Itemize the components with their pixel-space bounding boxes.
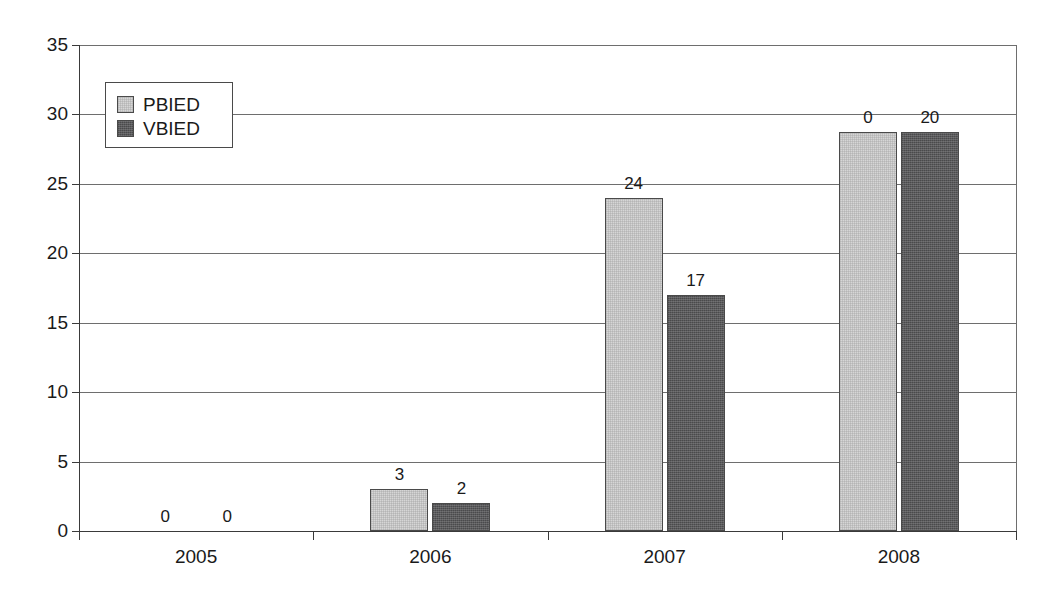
- bar-vbied-2008: [901, 132, 959, 531]
- bar-pbied-2008: [839, 132, 897, 531]
- y-tick-label: 10: [22, 382, 68, 401]
- legend-swatch-vbied: [117, 120, 134, 137]
- plot-right-border: [1016, 45, 1017, 532]
- bar-value-label: 0: [838, 109, 898, 126]
- legend: PBIED VBIED: [105, 82, 233, 148]
- x-category-label: 2006: [330, 547, 530, 566]
- bar-pbied-2006: [370, 489, 428, 531]
- x-tick-mark: [313, 531, 314, 540]
- bar-value-label: 0: [135, 508, 195, 525]
- x-category-label: 2007: [565, 547, 765, 566]
- legend-item-vbied: VBIED: [117, 116, 232, 140]
- y-tick-label: 0: [22, 521, 68, 540]
- legend-item-pbied: PBIED: [117, 92, 232, 116]
- bar-value-label: 17: [666, 272, 726, 289]
- y-tick-label: 30: [22, 104, 68, 123]
- x-tick-mark: [548, 531, 549, 540]
- y-tick-label: 5: [22, 452, 68, 471]
- x-tick-mark: [79, 531, 80, 540]
- bar-value-label: 0: [197, 508, 257, 525]
- bar-pbied-2007: [605, 198, 663, 531]
- bar-value-label: 3: [369, 466, 429, 483]
- legend-swatch-pbied: [117, 96, 134, 113]
- bar-vbied-2007: [667, 295, 725, 531]
- x-category-label: 2005: [96, 547, 296, 566]
- y-tick-label: 35: [22, 35, 68, 54]
- y-tick-label: 20: [22, 243, 68, 262]
- x-tick-mark: [782, 531, 783, 540]
- bar-value-label: 20: [900, 109, 960, 126]
- x-tick-mark: [1016, 531, 1017, 540]
- x-category-label: 2008: [799, 547, 999, 566]
- bar-value-label: 2: [431, 480, 491, 497]
- y-tick-label: 15: [22, 313, 68, 332]
- bar-vbied-2006: [432, 503, 490, 531]
- y-tick-label: 25: [22, 174, 68, 193]
- legend-label-vbied: VBIED: [143, 119, 200, 138]
- legend-label-pbied: PBIED: [143, 95, 200, 114]
- bar-value-label: 24: [604, 175, 664, 192]
- bar-chart: 05101520253035 2005200620072008 00322417…: [0, 0, 1048, 606]
